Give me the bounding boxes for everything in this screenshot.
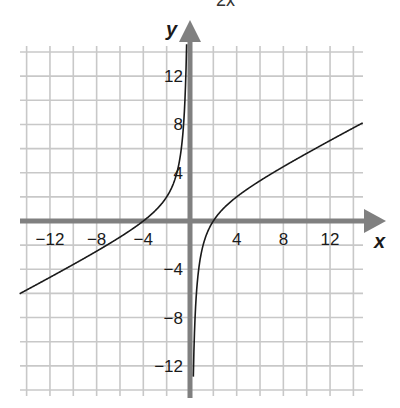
y-tick-label: −8 — [164, 309, 183, 328]
y-tick-label: −4 — [164, 260, 183, 279]
curve-right-branch — [193, 123, 362, 377]
x-axis-label: x — [373, 230, 386, 252]
curve-left-branch — [20, 44, 187, 294]
caption-fragment: 2x — [216, 0, 235, 10]
x-tick-label: −12 — [36, 230, 65, 249]
x-tick-label: −8 — [87, 230, 106, 249]
y-axis-arrow-icon — [179, 20, 201, 42]
x-tick-label: 12 — [321, 230, 340, 249]
y-tick-label: 8 — [174, 115, 183, 134]
y-tick-label: 12 — [164, 67, 183, 86]
x-tick-label: 4 — [232, 230, 241, 249]
x-tick-label: −4 — [134, 230, 153, 249]
y-tick-label: −12 — [154, 357, 183, 376]
x-tick-label: 8 — [279, 230, 288, 249]
y-axis-label: y — [165, 18, 178, 40]
function-graph: 2x −12−8−44812 1284−4−8−12 x y — [0, 0, 400, 408]
y-tick-label: 4 — [174, 164, 183, 183]
